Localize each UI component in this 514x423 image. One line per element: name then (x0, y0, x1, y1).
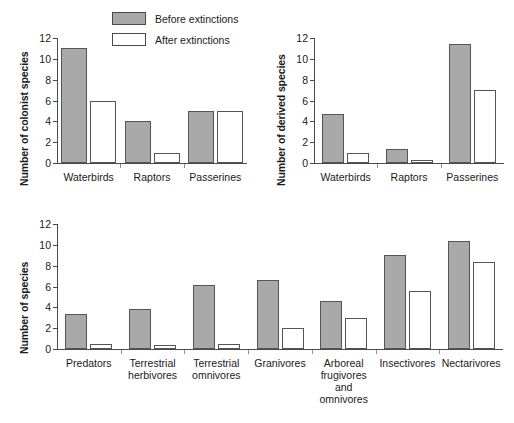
y-axis-tick-label: 4 (45, 301, 51, 313)
y-axis-tick (53, 328, 57, 329)
x-axis-category-label: Passerines (169, 171, 262, 183)
y-axis-tick-label: 6 (45, 95, 51, 107)
y-axis-tick (310, 101, 314, 102)
y-axis-tick (53, 266, 57, 267)
bar-after-passerines (217, 111, 243, 163)
x-axis-category-label: Passerines (426, 171, 514, 183)
y-axis-line (314, 38, 315, 163)
y-axis-line (57, 38, 58, 163)
axis-label-y-derived: Number of derived species (275, 54, 287, 186)
y-axis-tick (310, 121, 314, 122)
bar-before-predators (65, 314, 87, 349)
chart-colonist-species: Number of colonist species 024681012Wate… (0, 20, 257, 195)
y-axis-tick-label: 0 (45, 343, 51, 355)
plot-area-colonist: 024681012WaterbirdsRaptorsPasserines (57, 38, 247, 163)
x-axis-group-separator (184, 164, 185, 168)
x-axis-group-separator (121, 350, 122, 354)
y-axis-tick-label: 12 (39, 32, 51, 44)
y-axis-tick-label: 8 (45, 260, 51, 272)
axis-label-y-guilds: Number of species (18, 262, 30, 354)
bar-after-granivores (282, 328, 304, 349)
y-axis-tick-label: 8 (45, 74, 51, 86)
x-axis-group-separator (312, 350, 313, 354)
y-axis-tick-label: 0 (302, 157, 308, 169)
bar-before-insectivores (384, 255, 406, 349)
bar-after-insectivores (409, 291, 431, 349)
y-axis-tick-label: 0 (45, 157, 51, 169)
bar-before-raptors (386, 149, 408, 163)
x-axis-line (314, 163, 504, 164)
bar-after-arboreal-frugivores-and-omnivores (345, 318, 367, 349)
x-axis-group-separator (120, 164, 121, 168)
y-axis-tick (53, 121, 57, 122)
chart-species-by-guild: Number of species 024681012PredatorsTerr… (0, 212, 514, 423)
bar-before-raptors (125, 121, 151, 163)
bar-after-raptors (411, 160, 433, 163)
bar-before-waterbirds (61, 48, 87, 163)
x-axis-group-separator (184, 350, 185, 354)
y-axis-tick-label: 2 (302, 136, 308, 148)
y-axis-tick (53, 245, 57, 246)
y-axis-line (57, 224, 58, 349)
y-axis-tick-label: 12 (39, 218, 51, 230)
y-axis-tick-label: 2 (45, 136, 51, 148)
x-axis-line (57, 349, 503, 350)
y-axis-tick-label: 10 (296, 53, 308, 65)
y-axis-tick (310, 80, 314, 81)
y-axis-tick (53, 38, 57, 39)
y-axis-tick (53, 101, 57, 102)
bar-before-terrestrial-omnivores (193, 285, 215, 349)
bar-before-waterbirds (322, 114, 344, 163)
bar-before-nectarivores (448, 241, 470, 349)
bar-before-passerines (449, 44, 471, 163)
y-axis-tick-label: 6 (302, 95, 308, 107)
y-axis-tick-label: 10 (39, 53, 51, 65)
x-axis-group-separator (439, 350, 440, 354)
x-axis-group-separator (441, 164, 442, 168)
bar-before-arboreal-frugivores-and-omnivores (320, 301, 342, 349)
y-axis-tick (53, 142, 57, 143)
plot-area-derived: 024681012WaterbirdsRaptorsPasserines (314, 38, 504, 163)
y-axis-tick-label: 8 (302, 74, 308, 86)
bar-after-terrestrial-herbivores (154, 345, 176, 349)
bar-after-raptors (154, 153, 180, 163)
bar-after-terrestrial-omnivores (218, 344, 240, 349)
x-axis-group-separator (377, 164, 378, 168)
axis-label-y-colonist: Number of colonist species (18, 51, 30, 186)
x-axis-group-separator (248, 350, 249, 354)
y-axis-tick (53, 224, 57, 225)
y-axis-tick-label: 2 (45, 322, 51, 334)
y-axis-tick-label: 10 (39, 239, 51, 251)
bar-after-waterbirds (347, 153, 369, 163)
y-axis-tick-label: 4 (302, 115, 308, 127)
y-axis-tick-label: 4 (45, 115, 51, 127)
bar-before-passerines (188, 111, 214, 163)
bar-after-predators (90, 344, 112, 349)
y-axis-tick (53, 59, 57, 60)
x-axis-category-label: Nectarivores (424, 357, 514, 369)
y-axis-tick (310, 38, 314, 39)
y-axis-tick-label: 12 (296, 32, 308, 44)
y-axis-tick (310, 59, 314, 60)
y-axis-tick-label: 6 (45, 281, 51, 293)
bar-after-nectarivores (473, 262, 495, 350)
chart-derived-species: Number of derived species 024681012Water… (257, 20, 514, 195)
y-axis-tick (310, 142, 314, 143)
y-axis-tick (53, 307, 57, 308)
bar-after-passerines (474, 90, 496, 163)
bar-before-terrestrial-herbivores (129, 309, 151, 349)
x-axis-line (57, 163, 247, 164)
y-axis-tick (53, 287, 57, 288)
y-axis-tick (53, 80, 57, 81)
x-axis-group-separator (376, 350, 377, 354)
plot-area-guilds: 024681012PredatorsTerrestrial herbivores… (57, 224, 503, 349)
bar-after-waterbirds (90, 101, 116, 164)
bar-before-granivores (257, 280, 279, 349)
